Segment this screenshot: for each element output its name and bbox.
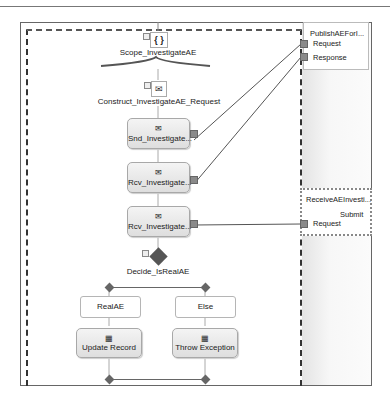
throw-exception-shape[interactable]: ▦ Throw Exception — [172, 328, 238, 358]
branch-bottom-connector — [109, 379, 205, 380]
construct-expand-toggle[interactable] — [144, 82, 151, 89]
send-shape[interactable]: ✉ Snd_Investigate... — [127, 118, 190, 149]
receive-shape-2[interactable]: ✉ Rcv_Investigate... — [127, 206, 190, 237]
shape-label: Rcv_Investigate... — [128, 222, 189, 231]
message-request: Request — [313, 219, 341, 228]
message-request: Request — [313, 39, 341, 48]
construct-label[interactable]: Construct_InvestigateAE_Request — [80, 97, 238, 106]
send-envelope-icon: ✉ — [155, 124, 162, 133]
receive-envelope-icon: ✉ — [155, 168, 162, 177]
rule-else[interactable]: Else — [175, 296, 236, 318]
receive-port-connector[interactable] — [190, 176, 198, 184]
shape-label: Rcv_Investigate... — [128, 178, 189, 187]
expression-icon: ▦ — [201, 334, 209, 343]
port-response-connector[interactable] — [300, 53, 308, 61]
receive-envelope-icon: ✉ — [155, 212, 162, 221]
construct-message-icon[interactable]: ✉ — [151, 81, 167, 97]
receive-port-connector-2[interactable] — [190, 220, 198, 228]
port-title: ReceiveAEInvesti... — [306, 195, 371, 204]
operation-submit: Submit — [340, 210, 363, 219]
decide-label[interactable]: Decide_IsRealAE — [110, 267, 206, 276]
update-record-shape[interactable]: ▦ Update Record — [76, 328, 142, 358]
receive-shape[interactable]: ✉ Rcv_Investigate... — [127, 162, 190, 193]
top-divider — [0, 6, 390, 7]
branch-top-connector — [109, 287, 205, 288]
scope-collapse-toggle[interactable] — [143, 33, 150, 40]
message-response: Response — [313, 53, 347, 62]
port-receive[interactable]: ReceiveAEInvesti... Submit — [300, 188, 372, 236]
shape-label: Snd_Investigate... — [128, 134, 189, 143]
scope-label[interactable]: Scope_InvestigateAE — [100, 48, 216, 57]
expression-icon: ▦ — [105, 334, 113, 343]
rule-realae[interactable]: RealAE — [80, 296, 141, 318]
shape-label: Throw Exception — [173, 343, 237, 352]
scope-braces-icon[interactable]: { } — [150, 32, 168, 48]
shape-label: Update Record — [77, 343, 141, 352]
send-port-connector[interactable] — [190, 130, 198, 138]
port-request-connector[interactable] — [300, 40, 308, 48]
port-request-connector[interactable] — [300, 220, 308, 228]
port-title: PublishAEForI... — [310, 29, 364, 38]
